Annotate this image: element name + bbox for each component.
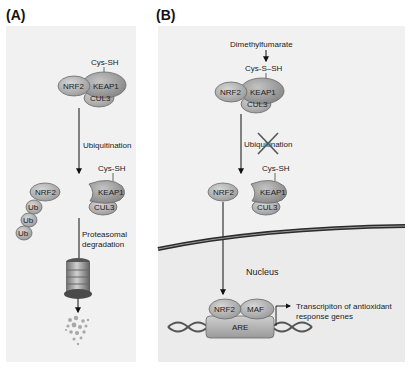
svg-text:NRF2: NRF2: [35, 188, 56, 197]
nucleus-label: Nucleus: [246, 267, 279, 277]
svg-text:KEAP1: KEAP1: [260, 188, 286, 197]
svg-text:KEAP1: KEAP1: [93, 82, 119, 91]
svg-text:MAF: MAF: [247, 305, 264, 314]
svg-text:ARE: ARE: [232, 323, 248, 332]
svg-text:NRF2: NRF2: [220, 88, 241, 97]
proteasome-icon: [64, 258, 92, 299]
svg-text:Cys-SH: Cys-SH: [91, 58, 119, 67]
nucleus-region: [158, 225, 405, 362]
svg-text:Ub: Ub: [28, 203, 39, 212]
svg-text:KEAP1: KEAP1: [98, 188, 124, 197]
panel-a-label: (A): [6, 7, 25, 23]
svg-text:Ub: Ub: [23, 216, 34, 225]
svg-text:Cys-SH: Cys-SH: [262, 164, 290, 173]
panel-b-label: (B): [156, 7, 175, 23]
degradation-label-line2: degradation: [82, 240, 124, 249]
transcription-label-line2: response genes: [296, 312, 353, 321]
svg-text:CUL3: CUL3: [247, 100, 268, 109]
svg-text:Cys-SH: Cys-SH: [98, 164, 126, 173]
svg-text:NRF2: NRF2: [213, 188, 234, 197]
svg-text:CUL3: CUL3: [90, 94, 111, 103]
ubiquitination-label-a: Ubiquitination: [83, 141, 131, 150]
degradation-label-line1: Proteasomal: [82, 230, 127, 239]
svg-text:NRF2: NRF2: [214, 305, 235, 314]
nrf2-pathway-diagram: (A) Cys-SH NRF2 KEAP1 CUL3 Ubiquitinatio…: [0, 0, 417, 372]
svg-text:Ub: Ub: [18, 229, 29, 238]
are-element: ARE: [206, 316, 274, 338]
svg-text:CUL3: CUL3: [94, 203, 115, 212]
svg-text:CUL3: CUL3: [257, 203, 278, 212]
drug-label: Dimethylfumarate: [230, 40, 293, 49]
svg-text:KEAP1: KEAP1: [250, 88, 276, 97]
svg-text:Cys-S–SH: Cys-S–SH: [245, 64, 283, 73]
svg-text:NRF2: NRF2: [63, 82, 84, 91]
transcription-label-line1: Transcripiton of antioxidant: [296, 302, 393, 311]
